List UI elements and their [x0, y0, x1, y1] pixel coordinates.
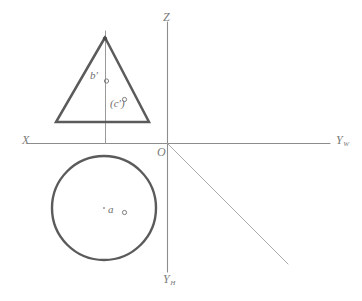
axis-label-y-w-subscript: W [343, 140, 349, 148]
apex-point-dot [103, 36, 107, 40]
axis-label-y-h-subscript: H [170, 279, 175, 287]
axis-label-y-h-base: Y [163, 272, 170, 286]
point-label-b-prime: b′ [90, 70, 98, 81]
front-view-group [56, 31, 149, 143]
a-point-marker [122, 210, 126, 214]
drawing-vector-layer [0, 0, 362, 301]
projection-drawing-canvas: X Z O YW YH b′ (c′) a [0, 0, 362, 301]
point-label-c-prime: (c′) [110, 98, 125, 109]
axis-label-y-h: YH [163, 273, 175, 285]
triangle-cone-outline [56, 38, 149, 123]
top-view-group [52, 156, 156, 260]
axis-label-y-w-base: Y [336, 133, 343, 147]
axis-label-z: Z [163, 11, 170, 23]
bisector-45-degree-line [168, 144, 289, 265]
axis-label-origin: O [157, 146, 166, 158]
axis-label-y-w: YW [336, 134, 349, 146]
circle-center-dot [103, 207, 105, 209]
point-label-a: a [108, 204, 114, 215]
axis-label-x: X [22, 134, 29, 146]
axis-group [28, 22, 330, 272]
